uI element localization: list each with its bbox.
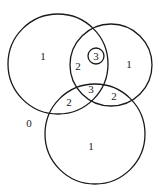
label-abc: 3 [88, 83, 94, 95]
label-c-only: 1 [88, 140, 94, 152]
label-ac: 2 [66, 96, 72, 108]
label-b-only: 1 [126, 58, 132, 70]
venn-diagram: 1 2 3 1 3 2 2 0 1 [0, 0, 159, 194]
label-outside: 0 [26, 117, 32, 129]
label-a-only: 1 [40, 50, 46, 62]
label-small-circle: 3 [93, 50, 99, 62]
circle-c [45, 84, 145, 184]
label-bc: 2 [111, 90, 117, 102]
label-ab: 2 [75, 60, 81, 72]
